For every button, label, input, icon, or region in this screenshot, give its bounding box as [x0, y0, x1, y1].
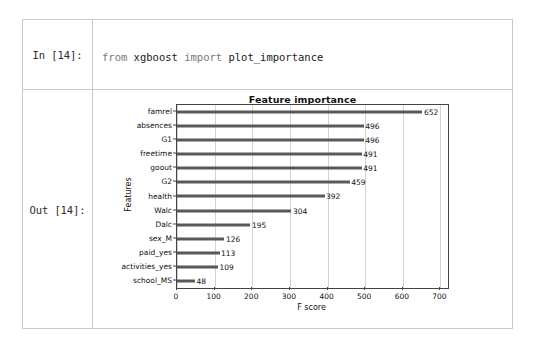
bar-health: [177, 195, 325, 198]
x-tick-label-0: 0: [174, 292, 179, 301]
keyword-from: from: [102, 51, 127, 63]
y-tick-mark: [173, 181, 176, 182]
y-tick-label-sex_M: sex_M: [149, 233, 172, 242]
code-text-1b: plot_importance: [222, 51, 323, 63]
y-tick-label-activities_yes: activities_yes: [121, 261, 172, 270]
y-tick-label-G1: G1: [161, 135, 172, 144]
output-prompt-label: Out [14]:: [23, 90, 93, 329]
bar-row: 304: [177, 204, 448, 218]
bar-value-label: 491: [362, 150, 378, 159]
bar-row: 48: [177, 274, 448, 288]
bar-G1: [177, 139, 364, 142]
y-tick-mark: [173, 279, 176, 280]
bar-row: 109: [177, 260, 448, 274]
x-tick-mark-200: [251, 287, 252, 290]
bar-row: 195: [177, 218, 448, 232]
bar-value-label: 459: [350, 178, 366, 187]
bar-value-label: 113: [220, 248, 236, 257]
figure-output: Feature importance Features 652496496491…: [93, 90, 512, 329]
bar-value-label: 126: [224, 234, 240, 243]
y-tick-label-famrel: famrel: [148, 107, 172, 116]
bar-row: 491: [177, 161, 448, 175]
notebook-input-cell[interactable]: In [14]: from xgboost import plot_import…: [23, 20, 512, 90]
bar-row: 496: [177, 133, 448, 147]
x-tick-label-400: 400: [319, 292, 333, 301]
y-tick-label-paid_yes: paid_yes: [139, 247, 172, 256]
bar-value-label: 109: [218, 262, 234, 271]
y-tick-mark: [173, 195, 176, 196]
x-tick-label-300: 300: [282, 292, 296, 301]
x-tick-mark-500: [364, 287, 365, 290]
y-tick-mark: [173, 237, 176, 238]
bar-paid_yes: [177, 251, 220, 254]
bar-school_MS: [177, 279, 195, 282]
bar-absences: [177, 125, 364, 128]
x-tick-label-500: 500: [357, 292, 371, 301]
bar-G2: [177, 181, 350, 184]
bar-row: 491: [177, 147, 448, 161]
x-tick-mark-300: [289, 287, 290, 290]
y-tick-label-Dalc: Dalc: [155, 219, 172, 228]
bar-value-label: 392: [325, 192, 341, 201]
y-tick-mark: [173, 111, 176, 112]
code-text-1a: xgboost: [127, 51, 184, 63]
x-tick-label-100: 100: [206, 292, 220, 301]
bar-row: 113: [177, 246, 448, 260]
y-tick-label-absences: absences: [137, 121, 172, 130]
bar-value-label: 496: [364, 136, 380, 145]
bar-value-label: 496: [364, 122, 380, 131]
keyword-import: import: [184, 51, 222, 63]
code-line-blank: [102, 87, 512, 89]
bar-activities_yes: [177, 265, 218, 268]
x-tick-mark-600: [402, 287, 403, 290]
y-tick-mark: [173, 125, 176, 126]
notebook-output-cell: Out [14]: Feature importance Features 65…: [23, 90, 512, 329]
y-tick-label-school_MS: school_MS: [133, 275, 172, 284]
bar-sex_M: [177, 237, 224, 240]
bar-Walc: [177, 209, 291, 212]
bar-famrel: [177, 111, 422, 114]
bar-freetime: [177, 153, 362, 156]
y-tick-label-G2: G2: [161, 177, 172, 186]
code-source[interactable]: from xgboost import plot_importance plot…: [93, 20, 512, 89]
y-tick-mark: [173, 251, 176, 252]
y-tick-mark: [173, 265, 176, 266]
y-tick-mark: [173, 153, 176, 154]
y-axis-label: Features: [124, 164, 133, 224]
bar-row: 126: [177, 232, 448, 246]
bar-value-label: 48: [195, 276, 206, 285]
y-tick-label-Walc: Walc: [154, 205, 172, 214]
x-axis-label: F score: [176, 303, 447, 312]
input-prompt-label: In [14]:: [23, 20, 93, 89]
bar-goout: [177, 167, 362, 170]
x-tick-mark-100: [214, 287, 215, 290]
bar-value-label: 195: [250, 220, 266, 229]
y-tick-mark: [173, 223, 176, 224]
bar-row: 459: [177, 175, 448, 189]
y-tick-label-freetime: freetime: [140, 149, 172, 158]
y-tick-label-goout: goout: [150, 163, 172, 172]
x-tick-label-600: 600: [395, 292, 409, 301]
code-editor[interactable]: from xgboost import plot_importance plot…: [93, 20, 512, 89]
bar-value-label: 304: [291, 206, 307, 215]
plot-area: 65249649649149145939230419512611310948: [176, 104, 449, 289]
bar-Dalc: [177, 223, 250, 226]
y-tick-label-health: health: [148, 191, 172, 200]
x-tick-mark-0: [176, 287, 177, 290]
code-line-1: from xgboost import plot_importance: [102, 52, 512, 65]
bar-value-label: 491: [362, 164, 378, 173]
bar-value-label: 652: [422, 108, 438, 117]
x-tick-mark-400: [327, 287, 328, 290]
notebook-container: In [14]: from xgboost import plot_import…: [22, 19, 513, 329]
bar-row: 392: [177, 189, 448, 203]
y-tick-mark: [173, 139, 176, 140]
y-tick-mark: [173, 167, 176, 168]
y-tick-mark: [173, 209, 176, 210]
bar-row: 496: [177, 119, 448, 133]
x-tick-label-700: 700: [432, 292, 446, 301]
x-tick-mark-700: [439, 287, 440, 290]
bar-row: 652: [177, 105, 448, 119]
matplotlib-figure: Feature importance Features 652496496491…: [93, 90, 512, 329]
x-tick-label-200: 200: [244, 292, 258, 301]
